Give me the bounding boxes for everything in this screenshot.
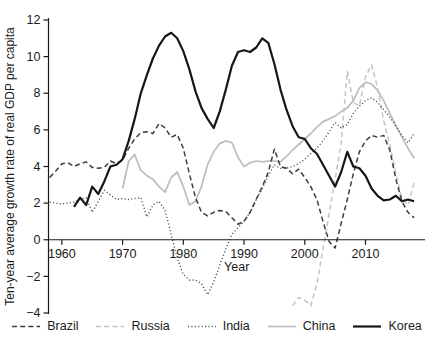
legend-label-brazil: Brazil [47,320,78,333]
x-tick-label: 1970 [109,247,137,261]
y-tick-label: 10 [27,50,41,64]
chart-plot-area: 121086420−2−4196019701980199020002010Yea… [0,0,433,347]
brazil-line-swatch [11,322,41,331]
korea-line-swatch [352,322,382,331]
y-tick-label: 8 [34,86,41,100]
x-tick-label: 2000 [291,247,319,261]
x-tick-label: 2010 [352,247,380,261]
chart-legend: Brazil Russia India China Korea [0,320,433,333]
x-axis-title: Year [224,260,249,274]
y-tick-label: −4 [26,306,40,320]
x-tick-label: 1960 [48,247,76,261]
y-axis-title: Ten-year average growth rate of real GDP… [3,27,17,306]
y-tick-label: −2 [26,270,40,284]
y-tick-label: 12 [27,13,41,27]
legend-label-china: China [303,320,336,333]
y-tick-label: 0 [34,233,41,247]
china-line-swatch [267,322,297,331]
legend-item-korea: Korea [352,320,421,333]
legend-item-china: China [267,320,336,333]
legend-item-india: India [187,320,250,333]
gdp-growth-line-chart: 121086420−2−4196019701980199020002010Yea… [0,0,433,347]
x-tick-label: 1990 [230,247,258,261]
y-tick-label: 2 [34,196,41,210]
legend-item-brazil: Brazil [11,320,78,333]
x-tick-label: 1980 [169,247,197,261]
legend-label-russia: Russia [131,320,169,333]
y-tick-label: 4 [34,160,41,174]
legend-label-korea: Korea [388,320,421,333]
russia-line-swatch [95,322,125,331]
legend-label-india: India [223,320,250,333]
india-line-swatch [187,322,217,331]
legend-item-russia: Russia [95,320,169,333]
y-tick-label: 6 [34,123,41,137]
